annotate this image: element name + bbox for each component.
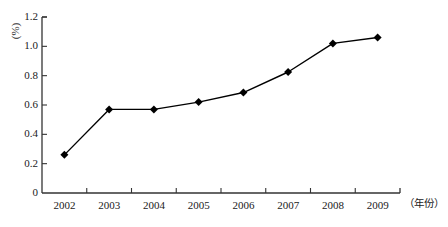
data-point-marker <box>374 34 382 42</box>
data-point-marker <box>284 68 292 76</box>
data-point-markers <box>60 34 381 159</box>
axis-lines <box>42 17 400 193</box>
data-point-marker <box>195 98 203 106</box>
line-chart: (%) 00.20.40.60.81.01.2 2002200320042005… <box>0 0 448 227</box>
data-point-marker <box>329 39 337 47</box>
x-axis-ticks <box>87 188 356 193</box>
y-axis-ticks <box>42 17 47 164</box>
data-line <box>64 38 377 155</box>
data-point-marker <box>239 89 247 97</box>
data-point-marker <box>150 105 158 113</box>
plot-area <box>0 0 448 227</box>
